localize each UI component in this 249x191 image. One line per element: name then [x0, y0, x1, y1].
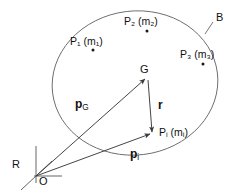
particle-dot-p2	[146, 30, 149, 33]
vector-label-r: r	[158, 99, 163, 112]
particle-label-pi: Pᵢ (mᵢ)	[159, 127, 188, 138]
diagram-canvas	[0, 0, 249, 191]
particle-label-p1: P₁ (m₁)	[70, 36, 103, 47]
particle-dot-p1	[92, 49, 95, 52]
body-label-leader-line	[205, 22, 213, 34]
mass-center-label-g: G	[140, 64, 149, 75]
particle-label-p3: P₃ (m₃)	[180, 49, 214, 60]
particle-label-p2: P₂ (m₂)	[124, 16, 158, 27]
vector-label-pi: pi	[130, 148, 139, 161]
origin-label-o: O	[39, 176, 48, 187]
vector-r-arrow	[148, 80, 152, 132]
vector-label-pG: pG	[75, 98, 89, 111]
particle-dot-p3	[202, 63, 205, 66]
vector-diagram-figure: B P₁ (m₁) P₂ (m₂) P₃ (m₃) Pᵢ (mᵢ) G R O …	[0, 0, 249, 191]
body-label-b: B	[216, 12, 223, 23]
frame-label-r: R	[12, 159, 20, 170]
